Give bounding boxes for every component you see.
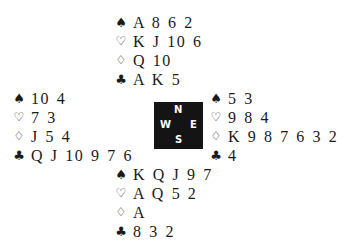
- spade-icon: ♠: [114, 165, 128, 184]
- south-spades-cards: K Q J 9 7: [133, 165, 213, 184]
- diamond-icon: ♢: [12, 127, 26, 146]
- east-diamonds-cards: K 9 8 7 6 3 2: [228, 127, 338, 146]
- heart-icon: ♡: [114, 32, 128, 51]
- west-diamonds-cards: J 5 4: [31, 127, 71, 146]
- compass-south-label: S: [175, 135, 182, 145]
- compass-box: N W E S: [154, 102, 203, 149]
- spade-icon: ♠: [114, 13, 128, 32]
- west-spades-cards: 10 4: [31, 89, 66, 108]
- compass-north-label: N: [174, 105, 182, 115]
- east-spades-cards: 5 3: [228, 89, 254, 108]
- north-spades-cards: A 8 6 2: [133, 13, 194, 32]
- spade-icon: ♠: [12, 89, 26, 108]
- south-clubs-cards: 8 3 2: [133, 222, 175, 241]
- club-icon: ♣: [114, 70, 128, 89]
- club-icon: ♣: [12, 146, 26, 165]
- compass-west-label: W: [160, 120, 171, 130]
- diamond-icon: ♢: [114, 203, 128, 222]
- north-hearts-cards: K J 10 6: [133, 32, 203, 51]
- east-hearts-cards: 9 8 4: [228, 108, 270, 127]
- south-diamonds-cards: A: [133, 203, 146, 222]
- west-clubs-cards: Q J 10 9 7 6: [31, 146, 133, 165]
- diamond-icon: ♢: [114, 51, 128, 70]
- east-clubs-cards: 4: [228, 146, 238, 165]
- heart-icon: ♡: [209, 108, 223, 127]
- heart-icon: ♡: [12, 108, 26, 127]
- north-diamonds-cards: Q 10: [133, 51, 172, 70]
- heart-icon: ♡: [114, 184, 128, 203]
- club-icon: ♣: [114, 222, 128, 241]
- club-icon: ♣: [209, 146, 223, 165]
- north-clubs-cards: A K 5: [133, 70, 181, 89]
- west-hearts-cards: 7 3: [31, 108, 57, 127]
- compass-east-label: E: [190, 120, 197, 130]
- south-hearts-cards: A Q 5 2: [133, 184, 197, 203]
- diamond-icon: ♢: [209, 127, 223, 146]
- spade-icon: ♠: [209, 89, 223, 108]
